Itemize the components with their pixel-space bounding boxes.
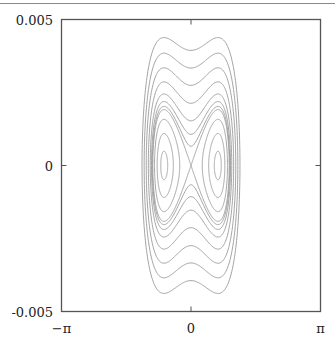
y-tick-label: 0 [45,159,53,174]
tick-labels: −π0π0.0050-0.005 [11,13,325,337]
y-tick-label: 0.005 [16,13,53,28]
y-tick-label: -0.005 [11,305,53,320]
x-tick-label: 0 [187,321,195,336]
x-tick-label: −π [52,321,72,336]
separatrix [153,110,229,222]
phase-portrait-chart: −π0π0.0050-0.005 [0,0,335,341]
orbit-curves [142,38,240,294]
x-tick-label: π [316,321,325,336]
